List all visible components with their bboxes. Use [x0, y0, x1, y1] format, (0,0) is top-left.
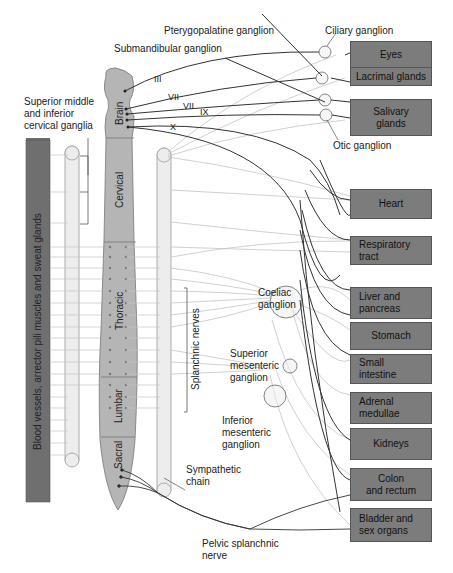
- label-cranial-nerve-ix: IX: [200, 106, 209, 118]
- label-cervical: Cervical: [114, 172, 125, 208]
- organ-heart: Heart: [350, 189, 432, 219]
- ciliary-ganglion: [319, 46, 331, 58]
- organ-small-intestine: Smallintestine: [350, 354, 432, 384]
- label-cervical-ganglia: Superior middle and inferior cervical ga…: [24, 96, 94, 132]
- label-cranial-nerve-iii: III: [154, 73, 162, 85]
- label-blood-vessels: Blood vessels, arrector pili muscles and…: [32, 213, 43, 450]
- organ-bladder-sex-organs: Bladder andsex organs: [350, 508, 432, 542]
- label-submandibular-ganglion: Submandibular ganglion: [114, 43, 222, 55]
- organ-adrenal-medullae: Adrenalmedullae: [350, 392, 432, 424]
- right-sympathetic-chain: [157, 148, 171, 497]
- label-cranial-nerve-x: X: [170, 121, 176, 133]
- label-pelvic-splanchnic-nerve: Pelvic splanchnic nerve: [202, 538, 279, 562]
- left-sympathetic-chain: [65, 146, 79, 467]
- cervical-ganglia-bracket: [80, 156, 88, 224]
- label-pterygopalatine-ganglion: Pterygopalatine ganglion: [164, 25, 274, 37]
- splanchnic-nerves-bracket: [184, 288, 187, 412]
- organ-liver-pancreas: Liver andpancreas: [350, 287, 432, 319]
- otic-leader: [327, 120, 338, 140]
- label-coeliac-ganglion: Coeliac ganglion: [258, 287, 296, 311]
- label-brain: Brain: [114, 102, 125, 125]
- label-superior-mesenteric-ganglion: Superior mesenteric ganglion: [230, 348, 279, 384]
- superior-mesenteric-ganglion: [283, 359, 297, 373]
- label-cranial-nerve-vii-b: VII: [183, 100, 194, 112]
- label-ciliary-ganglion: Ciliary ganglion: [325, 25, 393, 37]
- label-otic-ganglion: Otic ganglion: [333, 140, 391, 152]
- pterygopalatine-ganglion-node: [316, 72, 328, 84]
- label-thoracic: Thoracic: [114, 292, 125, 330]
- label-inferior-mesenteric-ganglion: Inferior mesenteric ganglion: [222, 415, 271, 451]
- label-cranial-nerve-vii-a: VII: [168, 91, 179, 103]
- label-sympathetic-chain: Sympathetic chain: [186, 464, 241, 488]
- organ-salivary-glands: Salivaryglands: [350, 99, 432, 136]
- organ-kidneys: Kidneys: [350, 428, 432, 460]
- organ-stomach: Stomach: [350, 322, 432, 350]
- label-sacral: Sacral: [113, 441, 124, 469]
- otic-ganglion-node: [320, 109, 332, 121]
- label-lumbar: Lumbar: [113, 389, 124, 423]
- organ-lacrimal-glands: Lacrimal glands: [350, 67, 432, 86]
- label-splanchnic-nerves: Splanchnic nerves: [190, 308, 201, 390]
- organ-respiratory-tract: Respiratorytract: [350, 236, 432, 265]
- organ-eyes: Eyes: [350, 41, 432, 68]
- organ-colon-rectum: Colonand rectum: [350, 468, 432, 501]
- inferior-mesenteric-ganglion: [264, 385, 286, 407]
